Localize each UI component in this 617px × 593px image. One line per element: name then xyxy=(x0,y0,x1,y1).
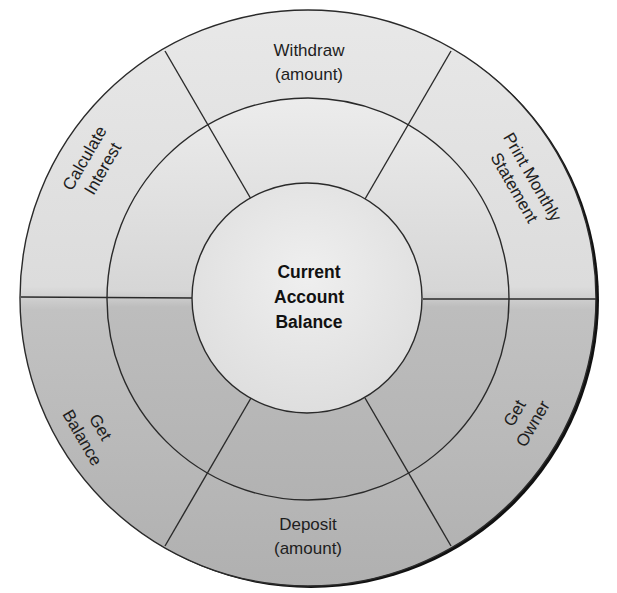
encapsulation-wheel-diagram: Current Account Balance Withdraw (amount… xyxy=(0,0,617,593)
center-label: Current Account Balance xyxy=(274,262,344,332)
withdraw-label: Withdraw xyxy=(274,41,346,60)
deposit-param: (amount) xyxy=(274,539,342,558)
deposit-label: Deposit xyxy=(279,515,337,534)
center-label-line-2: Account xyxy=(274,287,344,307)
withdraw-param: (amount) xyxy=(275,65,343,84)
center-label-line-1: Current xyxy=(277,262,340,282)
center-label-line-3: Balance xyxy=(275,312,342,332)
